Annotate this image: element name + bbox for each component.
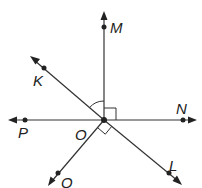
point-k <box>42 66 47 71</box>
arrowhead-n-icon <box>188 117 197 124</box>
right-angle-loq-icon <box>97 126 111 134</box>
label-m: M <box>110 19 123 36</box>
point-m <box>102 25 107 30</box>
point-n <box>181 118 186 123</box>
label-q: Q <box>61 174 73 188</box>
labels: M N P K L Q O <box>18 19 187 188</box>
arrowhead-m-icon <box>101 11 108 20</box>
rays <box>13 16 192 181</box>
label-n: N <box>176 100 187 117</box>
arrowhead-p-icon <box>8 117 17 124</box>
label-k: K <box>33 72 44 89</box>
label-l: L <box>169 157 177 174</box>
point-p <box>23 118 28 123</box>
geometry-diagram: M N P K L Q O <box>0 0 202 188</box>
label-p: P <box>18 124 28 141</box>
point-q <box>56 171 61 176</box>
label-o: O <box>75 126 87 143</box>
point-o <box>101 117 107 123</box>
angle-arc-kom-icon <box>90 101 105 108</box>
